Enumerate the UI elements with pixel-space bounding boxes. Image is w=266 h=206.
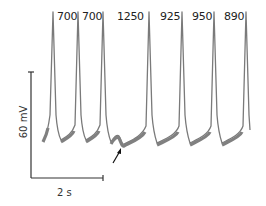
interval-label-3: 1250	[117, 11, 144, 22]
arrow-icon	[113, 148, 121, 163]
interval-label-5: 950	[192, 11, 212, 22]
trace-svg	[0, 0, 266, 206]
interval-label-4: 925	[160, 11, 180, 22]
scale-bar	[28, 72, 103, 181]
interval-label-2: 700	[82, 11, 102, 22]
action-potential-figure: 700 700 1250 925 950 890 60 mV 2 s	[0, 0, 266, 206]
membrane-potential-trace	[43, 12, 250, 146]
interval-label-6: 890	[224, 11, 244, 22]
interval-label-1: 700	[57, 11, 77, 22]
time-scale-label: 2 s	[57, 188, 72, 198]
voltage-scale-label: 60 mV	[19, 106, 29, 139]
